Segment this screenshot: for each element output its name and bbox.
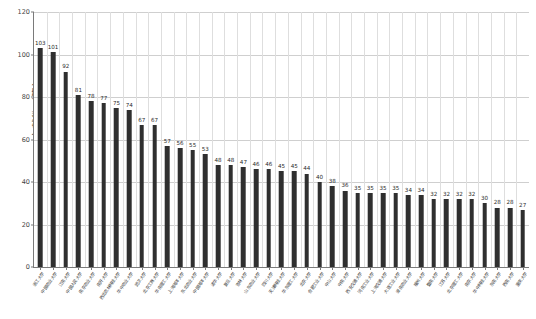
- x-tick-mark: [383, 267, 384, 270]
- bar[interactable]: [508, 208, 513, 268]
- bar[interactable]: [38, 48, 43, 267]
- bar-group[interactable]: 48清华大学: [212, 12, 225, 267]
- bar-group[interactable]: 74华中农业大学: [123, 12, 136, 267]
- bar-group[interactable]: 35河南工业大学: [364, 12, 377, 267]
- bar-group[interactable]: 45天津科技大学: [275, 12, 288, 267]
- bar-group[interactable]: 46四川大学: [262, 12, 275, 267]
- bar-group[interactable]: 28西南大学: [504, 12, 517, 267]
- x-tick-mark: [294, 267, 295, 270]
- bar[interactable]: [406, 195, 411, 267]
- bar[interactable]: [127, 110, 132, 267]
- bar-group[interactable]: 35上海交通大学: [377, 12, 390, 267]
- bar-group[interactable]: 38中山大学: [326, 12, 339, 267]
- bar[interactable]: [216, 165, 221, 267]
- x-tick-mark: [231, 267, 232, 270]
- bar[interactable]: [51, 52, 56, 267]
- x-tick-mark: [459, 267, 460, 270]
- x-tick-mark: [370, 267, 371, 270]
- bar-group[interactable]: 78南京农业大学: [85, 12, 98, 267]
- bar[interactable]: [368, 193, 373, 267]
- bar-group[interactable]: 101中国农业大学: [47, 12, 60, 267]
- bar[interactable]: [495, 208, 500, 268]
- bar[interactable]: [114, 108, 119, 267]
- bar-group[interactable]: 55东北农业大学: [186, 12, 199, 267]
- x-tick-mark: [218, 267, 219, 270]
- bar-value-label: 46: [265, 162, 272, 168]
- x-tick-mark: [180, 267, 181, 270]
- bar[interactable]: [89, 101, 94, 267]
- bar-group[interactable]: 81中国人民大学: [72, 12, 85, 267]
- bar[interactable]: [140, 125, 145, 267]
- bar[interactable]: [279, 171, 284, 267]
- bar[interactable]: [305, 174, 310, 268]
- bar-group[interactable]: 36中南大学: [339, 12, 352, 267]
- bar-group[interactable]: 92江南大学: [59, 12, 72, 267]
- bar[interactable]: [419, 195, 424, 267]
- bar[interactable]: [444, 199, 449, 267]
- bar-group[interactable]: 28东南大学: [491, 12, 504, 267]
- bar-group[interactable]: 56上海海洋大学: [174, 12, 187, 267]
- bar[interactable]: [482, 203, 487, 267]
- bar[interactable]: [520, 210, 525, 267]
- bar[interactable]: [76, 95, 81, 267]
- bar-value-label: 32: [456, 192, 463, 198]
- bar[interactable]: [102, 103, 107, 267]
- x-tick-label: 东南大学: [488, 271, 502, 288]
- bar[interactable]: [190, 150, 195, 267]
- bar-group[interactable]: 27重庆大学: [516, 12, 529, 267]
- bar-value-label: 34: [405, 188, 412, 194]
- bar-group[interactable]: 75西北农林科技大学: [110, 12, 123, 267]
- bar-group[interactable]: 53中国海洋大学: [199, 12, 212, 267]
- bar-group[interactable]: 46山东农业大学: [250, 12, 263, 267]
- bar-value-label: 101: [48, 45, 59, 51]
- bar-group[interactable]: 35大连工业大学: [389, 12, 402, 267]
- bar[interactable]: [317, 182, 322, 267]
- bar[interactable]: [228, 165, 233, 267]
- bar[interactable]: [393, 193, 398, 267]
- bar-group[interactable]: 35西安交通大学: [351, 12, 364, 267]
- x-tick-mark: [320, 267, 321, 270]
- bar-value-label: 32: [468, 192, 475, 198]
- bar[interactable]: [165, 146, 170, 267]
- bar-group[interactable]: 48复旦大学: [224, 12, 237, 267]
- bar[interactable]: [241, 167, 246, 267]
- bar-group[interactable]: 44北京大学: [301, 12, 314, 267]
- bar[interactable]: [470, 199, 475, 267]
- bar[interactable]: [63, 72, 68, 268]
- x-tick-label: 中山大学: [323, 271, 337, 288]
- bar[interactable]: [457, 199, 462, 267]
- bar[interactable]: [330, 186, 335, 267]
- x-tick-mark: [256, 267, 257, 270]
- bar-group[interactable]: 47吉林大学: [237, 12, 250, 267]
- bar-group[interactable]: 32江苏大学: [440, 12, 453, 267]
- bar[interactable]: [292, 171, 297, 267]
- bar-group[interactable]: 30华中科技大学: [478, 12, 491, 267]
- bar[interactable]: [355, 193, 360, 267]
- bar-group[interactable]: 57华南理工大学: [161, 12, 174, 267]
- bar[interactable]: [152, 125, 157, 267]
- bar-group[interactable]: 32暨南大学: [427, 12, 440, 267]
- bar-group[interactable]: 67北京工商大学: [148, 12, 161, 267]
- x-tick-mark: [155, 267, 156, 270]
- bar-value-label: 75: [113, 101, 120, 107]
- x-tick-mark: [472, 267, 473, 270]
- bar[interactable]: [267, 169, 272, 267]
- bar-group[interactable]: 34福州大学: [415, 12, 428, 267]
- x-tick-mark: [332, 267, 333, 270]
- bar-group[interactable]: 77南开大学: [97, 12, 110, 267]
- bar[interactable]: [254, 169, 259, 267]
- bar-group[interactable]: 40合肥工业大学: [313, 12, 326, 267]
- bar[interactable]: [343, 191, 348, 268]
- bar[interactable]: [381, 193, 386, 267]
- bar-group[interactable]: 67武汉大学: [136, 12, 149, 267]
- bar-group[interactable]: 32南京大学: [466, 12, 479, 267]
- x-tick-mark: [193, 267, 194, 270]
- bar-group[interactable]: 103浙江大学: [34, 12, 47, 267]
- y-tick-label: 20: [22, 221, 30, 229]
- bar-group[interactable]: 45华东理工大学: [288, 12, 301, 267]
- bar[interactable]: [203, 154, 208, 267]
- bar-group[interactable]: 34湖南农业大学: [402, 12, 415, 267]
- bar[interactable]: [178, 148, 183, 267]
- bar-group[interactable]: 32北京理工大学: [453, 12, 466, 267]
- bar[interactable]: [432, 199, 437, 267]
